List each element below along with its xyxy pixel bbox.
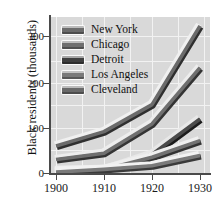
legend-swatch-icon <box>62 56 84 64</box>
legend-swatch-icon <box>62 41 84 49</box>
legend-item-chicago: Chicago <box>62 38 148 51</box>
legend-item-cleveland: Cleveland <box>62 83 148 96</box>
x-axis-line <box>49 173 211 175</box>
y-tick-label-0: 0 <box>4 168 44 179</box>
legend-label: Chicago <box>91 39 129 51</box>
y-axis-line <box>49 15 51 175</box>
x-tick-mark-1910 <box>104 175 105 180</box>
legend-swatch-icon <box>62 86 84 94</box>
plot-area: New York Chicago Detroit Los Angeles Cle… <box>50 17 210 173</box>
legend-label: New York <box>91 24 138 36</box>
legend-label: Detroit <box>91 54 124 66</box>
legend-swatch-icon <box>62 71 84 79</box>
legend-item-detroit: Detroit <box>62 53 148 66</box>
y-tick-label-300: 300 <box>4 31 44 42</box>
legend-item-new-york: New York <box>62 23 148 36</box>
x-tick-label-1920: 1920 <box>130 182 174 194</box>
legend-swatch-icon <box>62 26 84 34</box>
x-tick-label-1900: 1900 <box>34 182 78 194</box>
x-tick-mark-1900 <box>56 175 57 180</box>
legend: New York Chicago Detroit Los Angeles Cle… <box>62 23 148 96</box>
y-tick-label-200: 200 <box>4 78 44 89</box>
x-tick-label-1910: 1910 <box>82 182 126 194</box>
legend-item-los-angeles: Los Angeles <box>62 68 148 81</box>
y-tick-label-100: 100 <box>4 123 44 134</box>
x-tick-mark-1920 <box>152 175 153 180</box>
legend-label: Los Angeles <box>91 69 148 81</box>
line-chart-figure: Black residents (thousands) 300 200 100 … <box>0 0 224 210</box>
legend-label: Cleveland <box>91 84 138 96</box>
x-tick-label-1930: 1930 <box>178 182 222 194</box>
x-tick-mark-1930 <box>200 175 201 180</box>
